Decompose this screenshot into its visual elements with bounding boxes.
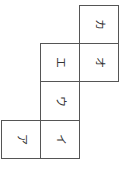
face-label: オ (94, 57, 105, 68)
face-label: ウ (55, 96, 66, 107)
face-o: オ (79, 43, 119, 82)
face-i: イ (40, 120, 80, 159)
face-label: カ (94, 19, 105, 30)
face-label: イ (55, 134, 66, 145)
face-e: エ (40, 43, 80, 82)
face-ka: カ (79, 5, 119, 44)
face-label: エ (55, 57, 66, 68)
face-u: ウ (40, 81, 80, 121)
face-label: ア (16, 134, 27, 145)
face-a: ア (1, 120, 41, 159)
